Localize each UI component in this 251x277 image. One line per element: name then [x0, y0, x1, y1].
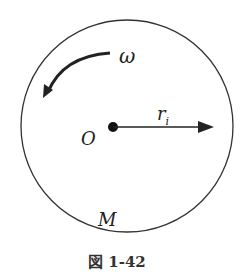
rotating-disk-diagram	[0, 0, 251, 277]
figure-caption: 図 1-42	[88, 250, 146, 271]
radius-label: ri	[157, 103, 169, 128]
center-label: O	[81, 128, 96, 149]
omega-label: ω	[119, 44, 135, 68]
radius-arrowhead	[198, 121, 214, 133]
radius-symbol: r	[157, 103, 166, 124]
rotation-arrow	[48, 53, 110, 92]
mass-label: M	[98, 209, 116, 230]
radius-subscript: i	[166, 115, 170, 128]
